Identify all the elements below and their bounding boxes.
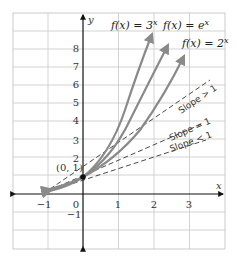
slope-gt-label: Slope > 1 — [177, 83, 219, 116]
x-tick-3: 3 — [186, 199, 192, 210]
function-labels: f(x) = 3x f(x) = ex f(x) = 2x — [110, 18, 229, 50]
x-tick-neg1: −1 — [37, 199, 52, 210]
y-axis-label: y — [87, 14, 94, 25]
exponential-chart: 8 7 6 5 4 3 2 −1 −1 0 1 2 3 x y Slope > … — [0, 0, 237, 262]
label-2x: f(x) = 2x — [181, 36, 229, 50]
x-tick-2: 2 — [151, 199, 157, 210]
x-tick-labels: −1 0 1 2 3 — [37, 199, 193, 210]
x-tick-1: 1 — [115, 199, 121, 210]
y-tick-7: 7 — [73, 61, 79, 72]
label-ex: f(x) = ex — [162, 18, 210, 32]
y-tick-5: 5 — [73, 97, 79, 108]
y-tick-4: 4 — [73, 115, 79, 126]
point-label: (0, 1) — [56, 162, 83, 173]
x-tick-0: 0 — [73, 199, 79, 210]
point-0-1 — [80, 174, 86, 180]
y-tick-6: 6 — [73, 79, 79, 90]
y-tick-3: 3 — [73, 135, 79, 146]
label-3x: f(x) = 3x — [110, 18, 158, 32]
x-axis-label: x — [216, 180, 222, 191]
y-tick-neg1: −1 — [67, 209, 82, 220]
y-tick-8: 8 — [73, 43, 79, 54]
